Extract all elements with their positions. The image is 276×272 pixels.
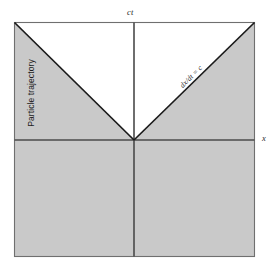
ct-axis-label: ct xyxy=(127,7,134,17)
x-axis-label: x xyxy=(262,133,266,143)
diagram-canvas xyxy=(0,0,276,272)
light-cone-figure: ct x Particle trajectory dx/dt = c xyxy=(0,0,276,272)
particle-trajectory-label: Particle trajectory xyxy=(26,38,36,148)
